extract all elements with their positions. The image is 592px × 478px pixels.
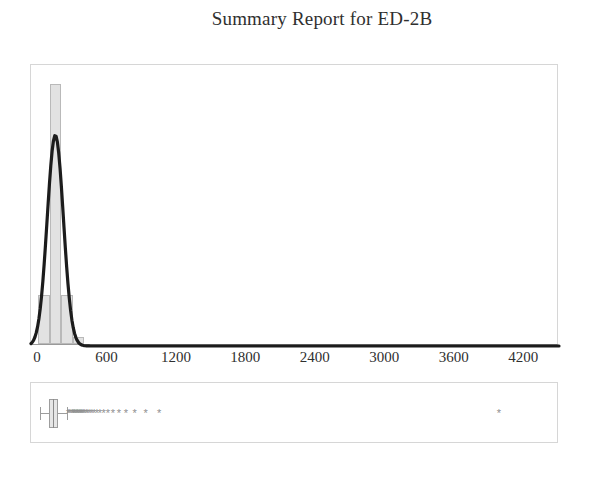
boxplot-outlier-marker: * — [124, 408, 128, 419]
boxplot-panel: ******************************** — [30, 382, 558, 443]
boxplot-outlier-marker: * — [143, 408, 147, 419]
boxplot-whisker-cap — [40, 407, 41, 420]
x-axis: 0600120018002400300036004200 — [30, 345, 558, 371]
x-tick-label: 4200 — [508, 349, 538, 366]
boxplot-outlier-marker: * — [157, 408, 161, 419]
boxplot-outlier-marker: * — [117, 408, 121, 419]
boxplot-outlier-marker: * — [106, 408, 110, 419]
x-tick-label: 3000 — [369, 349, 399, 366]
normal-fit-curve — [31, 65, 559, 346]
x-tick-label: 0 — [33, 349, 41, 366]
x-tick-label: 2400 — [300, 349, 330, 366]
boxplot-plot-area: ******************************** — [31, 383, 557, 442]
summary-report-page: Summary Report for ED-2B 060012001800240… — [0, 0, 592, 478]
boxplot-outlier-marker: * — [111, 408, 115, 419]
boxplot-median-line — [53, 399, 54, 428]
page-title: Summary Report for ED-2B — [0, 8, 592, 30]
boxplot-outlier-marker: * — [497, 408, 501, 419]
x-tick-label: 600 — [95, 349, 118, 366]
boxplot-whisker — [40, 413, 49, 414]
x-tick-label: 1200 — [161, 349, 191, 366]
x-tick-label: 3600 — [439, 349, 469, 366]
boxplot-outlier-marker: * — [133, 408, 137, 419]
histogram-panel — [30, 64, 558, 345]
x-tick-label: 1800 — [230, 349, 260, 366]
